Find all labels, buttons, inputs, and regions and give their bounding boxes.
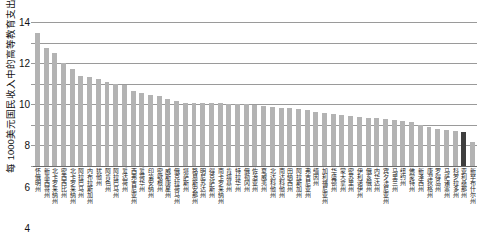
x-axis-tick-label: 加利福尼亚州: [322, 168, 328, 204]
bar: [287, 108, 292, 166]
x-label-slot: 伊利诺伊州: [355, 168, 364, 236]
bar-slot: [146, 22, 155, 166]
bar-slot: [129, 22, 138, 166]
bar: [252, 105, 257, 166]
bar-slot: [364, 22, 373, 166]
bar-slot: [381, 22, 390, 166]
bar-slot: [312, 22, 321, 166]
x-axis-tick-label: 田纳西州: [287, 168, 293, 192]
x-label-slot: 罗得岛州: [433, 168, 442, 236]
bar: [200, 103, 205, 166]
y-tick-label: 6: [24, 181, 30, 192]
x-axis-tick-label: 科罗拉多州: [452, 168, 458, 198]
x-label-slot: 怀俄明州: [33, 168, 42, 236]
bar-slot: [164, 22, 173, 166]
x-label-slot: 西弗吉尼亚州: [129, 168, 138, 236]
bar-slot: [181, 22, 190, 166]
bar-slot: [198, 22, 207, 166]
gridline-0: 0: [33, 166, 477, 167]
bar: [209, 103, 214, 166]
bar-slot: [416, 22, 425, 166]
bar: [105, 82, 110, 166]
x-label-slot: 内布拉斯加州: [85, 168, 94, 236]
x-axis-tick-label: 弗吉尼亚州: [304, 168, 310, 198]
x-axis-tick-label: 阿肯色州: [104, 168, 110, 192]
bar: [218, 103, 223, 166]
y-tick-label: 8: [24, 140, 30, 151]
bar: [418, 125, 423, 166]
bar: [279, 108, 284, 166]
bar: [331, 114, 336, 166]
x-axis-tick-label: 南达科他州: [278, 168, 284, 198]
x-label-slot: 佐治亚州: [251, 168, 260, 236]
bar-slot: [399, 22, 408, 166]
bar: [61, 63, 66, 166]
bar: [52, 53, 57, 166]
bar: [70, 69, 75, 166]
x-label-slot: 明尼苏达州: [198, 168, 207, 236]
x-label-slot: 阿肯色州: [103, 168, 112, 236]
y-tick-label: 4: [24, 222, 30, 233]
x-label-slot: 马里兰州: [390, 168, 399, 236]
x-axis-tick-label: 密苏里州: [348, 168, 354, 192]
x-label-slot: 缅因州: [312, 168, 321, 236]
bar: [453, 131, 458, 166]
bar: [339, 115, 344, 166]
bar-slot: [216, 22, 225, 166]
bar: [96, 79, 101, 166]
x-axis-tick-label: 得克萨斯州: [208, 168, 214, 198]
x-axis-tick-label: 亚利桑那州: [461, 168, 467, 198]
x-axis-tick-label: 内布拉斯加州: [87, 168, 93, 204]
x-label-slot: 新泽西州: [416, 168, 425, 236]
x-axis-tick-label: 北卡罗来纳州: [69, 168, 75, 204]
x-label-slot: 科罗拉多州: [451, 168, 460, 236]
bar-slot: [120, 22, 129, 166]
bar-slot: [407, 22, 416, 166]
x-label-slot: 犹他州: [94, 168, 103, 236]
x-axis-tick-label: 堪萨斯州: [182, 168, 188, 192]
x-label-slot: 密苏里州: [346, 168, 355, 236]
bar: [131, 91, 136, 166]
bar-slot: [277, 22, 286, 166]
bar: [226, 104, 231, 166]
x-label-slot: 亚利桑那州: [459, 168, 468, 236]
bar-slot: [338, 22, 347, 166]
x-label-slot: 新罕布什尔州: [468, 168, 477, 236]
x-axis-tick-label: 佛蒙特州: [409, 168, 415, 192]
x-axis-tick-label: 新墨西哥州: [43, 168, 49, 198]
bar-slot: [242, 22, 251, 166]
x-axis-tick-label: 阿拉斯加州: [295, 168, 301, 198]
bar-slot: [451, 22, 460, 166]
bar-slot: [207, 22, 216, 166]
bar: [374, 118, 379, 166]
x-label-slot: 蒙大拿州: [338, 168, 347, 236]
x-axis-tick-label: 马萨诸塞州: [443, 168, 449, 198]
x-label-slot: 内华达州: [372, 168, 381, 236]
x-axis-tick-label: 肯塔基州: [226, 168, 232, 192]
x-label-slot: 康涅狄格州: [425, 168, 434, 236]
bar: [44, 48, 49, 166]
bar: [470, 142, 475, 166]
bar: [383, 119, 388, 166]
bar: [261, 106, 266, 166]
x-axis-tick-label: 特拉华州: [234, 168, 240, 192]
x-axis-tick-label: 南卡罗来纳州: [217, 168, 223, 204]
x-axis-tick-label: 阿拉巴马州: [113, 168, 119, 198]
x-label-slot: 加利福尼亚州: [320, 168, 329, 236]
bar: [348, 116, 353, 166]
bar: [366, 118, 371, 166]
x-label-slot: 北达科他州: [268, 168, 277, 236]
x-axis-tick-label: 俄勒冈州: [243, 168, 249, 192]
x-axis-tick-label: 康涅狄格州: [426, 168, 432, 198]
bar-slot: [459, 22, 468, 166]
x-label-slot: 肯塔基州: [224, 168, 233, 236]
bar-slot: [329, 22, 338, 166]
bar: [78, 76, 83, 167]
bar-slot: [111, 22, 120, 166]
bar: [427, 127, 432, 166]
x-label-slot: 南卡罗来纳州: [216, 168, 225, 236]
bar-slot: [285, 22, 294, 166]
x-axis-tick-label: 犹他州: [95, 168, 101, 186]
bar: [157, 96, 162, 166]
y-tick-label: 14: [19, 17, 30, 28]
